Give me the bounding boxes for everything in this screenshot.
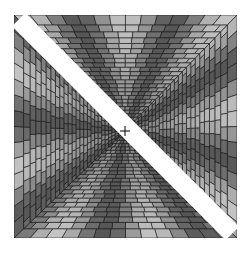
figure-canvas <box>0 0 251 261</box>
illusion-figure <box>0 0 251 261</box>
